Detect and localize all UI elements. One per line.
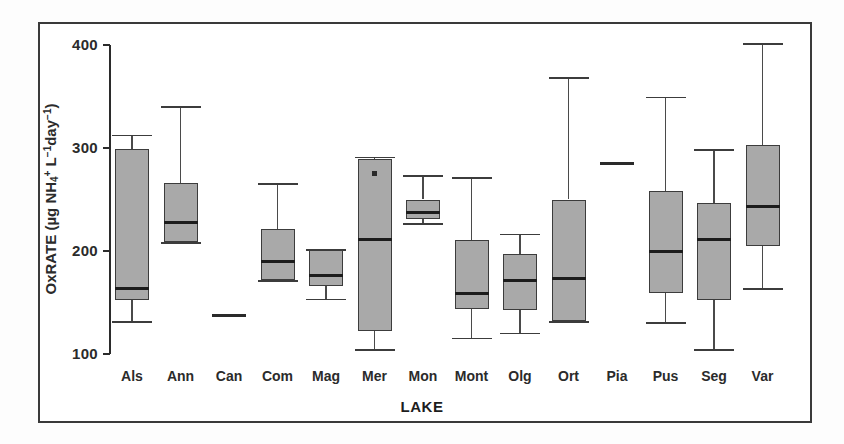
- upper-whisker: [762, 44, 764, 145]
- x-tick-label-pus: Pus: [653, 368, 679, 384]
- lower-whisker: [325, 286, 327, 299]
- lower-whisker: [471, 309, 473, 339]
- y-tick-label: 100: [58, 345, 98, 362]
- lower-whisker-cap: [306, 299, 346, 301]
- figure-canvas: 100200300400 OxRATE (µg NH4+ L−1day−1) A…: [0, 0, 844, 444]
- x-tick-label-var: Var: [752, 368, 774, 384]
- lower-whisker-cap: [161, 242, 201, 244]
- upper-whisker: [665, 98, 667, 192]
- x-tick-label-olg: Olg: [508, 368, 531, 384]
- upper-whisker: [131, 136, 133, 149]
- upper-whisker: [277, 184, 279, 229]
- iqr-box: [697, 203, 731, 301]
- lower-whisker-cap: [403, 223, 443, 225]
- y-tick-label: 300: [58, 139, 98, 156]
- upper-whisker-cap: [549, 77, 589, 79]
- lower-whisker-cap: [694, 349, 734, 351]
- x-tick-label-mon: Mon: [409, 368, 438, 384]
- x-axis-label: LAKE: [0, 398, 844, 415]
- upper-whisker: [471, 178, 473, 240]
- y-tick-mark: [103, 353, 110, 355]
- upper-whisker: [180, 107, 182, 183]
- median-line: [164, 221, 198, 224]
- x-tick-label-ort: Ort: [558, 368, 579, 384]
- iqr-box: [309, 250, 343, 286]
- upper-whisker: [713, 150, 715, 203]
- iqr-box: [406, 200, 440, 220]
- x-tick-label-com: Com: [262, 368, 293, 384]
- lower-whisker: [519, 310, 521, 334]
- y-tick-label: 400: [58, 36, 98, 53]
- upper-whisker: [519, 235, 521, 255]
- x-tick-label-mer: Mer: [362, 368, 387, 384]
- x-tick-label-als: Als: [121, 368, 143, 384]
- x-tick-label-pia: Pia: [606, 368, 627, 384]
- y-axis-label: OxRATE (µg NH4+ L−1day−1): [42, 84, 60, 314]
- median-line: [115, 287, 149, 290]
- lower-whisker-cap: [452, 338, 492, 340]
- upper-whisker-cap: [452, 177, 492, 179]
- median-line: [455, 292, 489, 295]
- upper-whisker-cap: [743, 43, 783, 45]
- median-line: [261, 260, 295, 263]
- y-tick-label: 200: [58, 242, 98, 259]
- x-tick-label-seg: Seg: [701, 368, 727, 384]
- boxplot-chart: 100200300400 OxRATE (µg NH4+ L−1day−1) A…: [0, 0, 844, 444]
- iqr-box: [649, 191, 683, 293]
- upper-whisker-cap: [403, 175, 443, 177]
- lower-whisker-cap: [549, 321, 589, 323]
- x-tick-label-mont: Mont: [455, 368, 488, 384]
- lower-whisker: [762, 246, 764, 289]
- iqr-box: [261, 229, 295, 279]
- x-tick-label-mag: Mag: [312, 368, 340, 384]
- median-line: [746, 205, 780, 208]
- outlier-point: [372, 171, 377, 176]
- upper-whisker-cap: [500, 234, 540, 236]
- upper-whisker: [568, 78, 570, 200]
- lower-whisker: [131, 300, 133, 322]
- x-tick-label-can: Can: [216, 368, 242, 384]
- upper-whisker-cap: [112, 135, 152, 137]
- single-value-line: [600, 162, 634, 165]
- y-axis-line: [109, 45, 111, 354]
- iqr-box: [455, 240, 489, 309]
- lower-whisker: [665, 293, 667, 323]
- median-line: [309, 274, 343, 277]
- iqr-box: [164, 183, 198, 242]
- iqr-box: [552, 200, 586, 322]
- median-line: [358, 238, 392, 241]
- lower-whisker-cap: [258, 280, 298, 282]
- x-tick-label-ann: Ann: [167, 368, 194, 384]
- lower-whisker-cap: [500, 333, 540, 335]
- lower-whisker: [713, 300, 715, 349]
- median-line: [649, 250, 683, 253]
- lower-whisker-cap: [743, 288, 783, 290]
- y-tick-mark: [103, 147, 110, 149]
- lower-whisker-cap: [646, 322, 686, 324]
- median-line: [552, 277, 586, 280]
- median-line: [697, 238, 731, 241]
- lower-whisker-cap: [355, 349, 395, 351]
- iqr-box: [115, 149, 149, 300]
- upper-whisker-cap: [355, 157, 395, 159]
- upper-whisker-cap: [694, 149, 734, 151]
- iqr-box: [358, 159, 392, 331]
- single-value-line: [212, 314, 246, 317]
- iqr-box: [746, 145, 780, 246]
- y-tick-mark: [103, 250, 110, 252]
- lower-whisker-cap: [112, 321, 152, 323]
- upper-whisker-cap: [161, 106, 201, 108]
- upper-whisker: [422, 176, 424, 200]
- y-tick-mark: [103, 44, 110, 46]
- median-line: [503, 279, 537, 282]
- upper-whisker-cap: [646, 97, 686, 99]
- upper-whisker-cap: [258, 183, 298, 185]
- median-line: [406, 211, 440, 214]
- lower-whisker: [374, 331, 376, 350]
